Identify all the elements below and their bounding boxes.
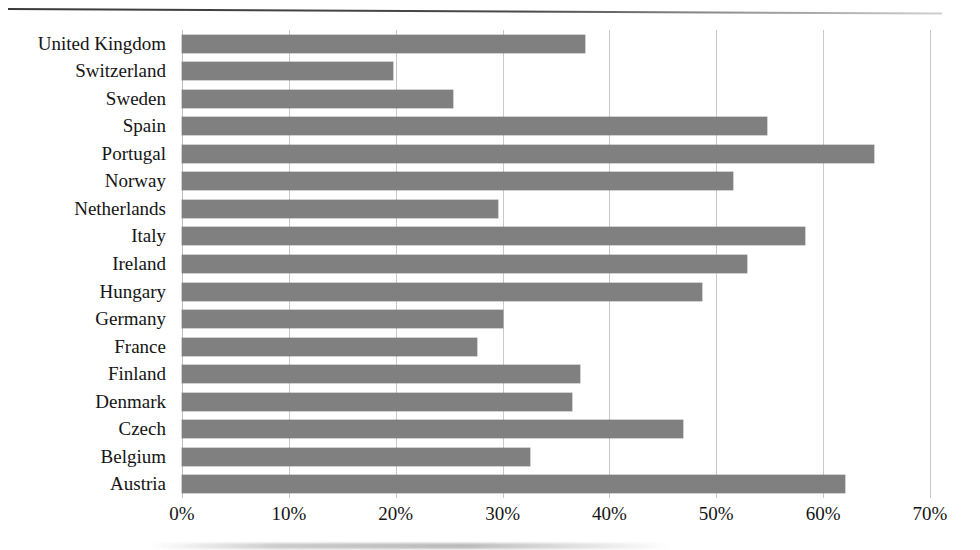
bar-ireland xyxy=(182,255,747,273)
bar-row xyxy=(182,113,930,139)
bar-netherlands xyxy=(182,200,498,218)
plot-area xyxy=(182,30,930,498)
x-tick-label-30: 30% xyxy=(485,503,520,525)
category-label-hungary: Hungary xyxy=(100,279,166,305)
bar-row xyxy=(182,471,930,497)
category-label-switzerland: Switzerland xyxy=(75,58,166,84)
x-tick-label-20: 20% xyxy=(378,503,413,525)
x-tick-label-60: 60% xyxy=(806,503,841,525)
bar-italy xyxy=(182,227,805,245)
x-tick-label-10: 10% xyxy=(271,503,306,525)
bar-chart: United KingdomSwitzerlandSwedenSpainPort… xyxy=(0,0,980,550)
bar-row xyxy=(182,196,930,222)
bar-row xyxy=(182,168,930,194)
x-tick-label-40: 40% xyxy=(592,503,627,525)
scan-artifact xyxy=(150,543,670,549)
bar-row xyxy=(182,389,930,415)
category-label-united-kingdom: United Kingdom xyxy=(38,31,166,57)
bar-row xyxy=(182,416,930,442)
bar-spain xyxy=(182,117,767,135)
x-tick-label-0: 0% xyxy=(169,503,194,525)
category-label-netherlands: Netherlands xyxy=(74,196,166,222)
value-axis: 0%10%20%30%40%50%60%70% xyxy=(182,503,930,537)
category-label-france: France xyxy=(114,334,166,360)
bar-series xyxy=(182,30,930,498)
bar-norway xyxy=(182,172,733,190)
category-label-finland: Finland xyxy=(108,361,166,387)
x-tick-label-70: 70% xyxy=(913,503,948,525)
page: United KingdomSwitzerlandSwedenSpainPort… xyxy=(0,0,980,550)
category-label-czech: Czech xyxy=(119,416,166,442)
category-label-portugal: Portugal xyxy=(102,141,166,167)
bar-united-kingdom xyxy=(182,35,585,53)
bar-finland xyxy=(182,365,580,383)
category-axis: United KingdomSwitzerlandSwedenSpainPort… xyxy=(0,30,176,498)
bar-row xyxy=(182,306,930,332)
bar-row xyxy=(182,334,930,360)
bar-austria xyxy=(182,475,845,493)
category-label-sweden: Sweden xyxy=(106,86,166,112)
bar-row xyxy=(182,361,930,387)
bar-row xyxy=(182,141,930,167)
category-label-denmark: Denmark xyxy=(95,389,166,415)
bar-row xyxy=(182,223,930,249)
bar-czech xyxy=(182,420,683,438)
bar-germany xyxy=(182,310,503,328)
bar-row xyxy=(182,251,930,277)
bar-row xyxy=(182,444,930,470)
category-label-italy: Italy xyxy=(131,223,166,249)
bar-denmark xyxy=(182,393,572,411)
bar-row xyxy=(182,279,930,305)
category-label-norway: Norway xyxy=(105,168,166,194)
category-label-belgium: Belgium xyxy=(101,444,166,470)
bar-hungary xyxy=(182,283,702,301)
category-label-spain: Spain xyxy=(123,113,166,139)
bar-sweden xyxy=(182,90,453,108)
x-tick-label-50: 50% xyxy=(699,503,734,525)
bar-portugal xyxy=(182,145,874,163)
category-label-austria: Austria xyxy=(110,471,166,497)
bar-switzerland xyxy=(182,62,393,80)
category-label-ireland: Ireland xyxy=(112,251,166,277)
gridline-70 xyxy=(930,30,931,498)
bar-row xyxy=(182,86,930,112)
bar-row xyxy=(182,31,930,57)
bar-france xyxy=(182,338,477,356)
category-label-germany: Germany xyxy=(95,306,166,332)
bar-belgium xyxy=(182,448,530,466)
bar-row xyxy=(182,58,930,84)
